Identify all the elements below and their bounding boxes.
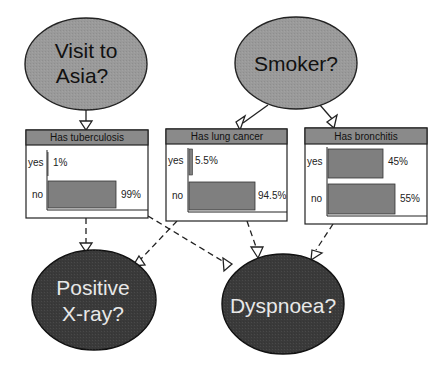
node-has-lung-cancer[interactable]: Has lung cancer yes 5.5% no 94.5%: [166, 129, 287, 221]
state-label-no: no: [311, 193, 323, 204]
bayesian-network-diagram: Visit to Asia? Smoker? Has tuberculosis …: [0, 0, 446, 373]
bar-yes: [47, 152, 49, 176]
arrowhead-icon: [223, 258, 232, 271]
arrowhead-icon: [327, 115, 337, 128]
bar-no: [328, 184, 395, 214]
node-label: X-ray?: [62, 302, 124, 325]
node-label: Asia?: [56, 64, 109, 87]
node-smoker[interactable]: Smoker?: [235, 17, 357, 109]
node-label: Smoker?: [254, 52, 338, 75]
node-visit-to-asia[interactable]: Visit to Asia?: [25, 18, 147, 110]
state-value-no: 99%: [121, 189, 141, 200]
state-value-yes: 1%: [53, 157, 68, 168]
state-value-yes: 45%: [388, 156, 408, 167]
edge-smoker-to-lung-cancer: [236, 105, 268, 130]
node-dyspnoea[interactable]: Dyspnoea?: [222, 254, 344, 354]
edge-smoker-to-bronchitis: [320, 105, 337, 128]
box-title: Has bronchitis: [334, 131, 397, 142]
state-value-yes: 5.5%: [195, 155, 218, 166]
state-value-no: 55%: [400, 193, 420, 204]
bar-no: [189, 182, 255, 210]
node-has-tuberculosis[interactable]: Has tuberculosis yes 1% no 99%: [26, 130, 148, 218]
state-label-no: no: [172, 190, 184, 201]
edge-lung-cancer-to-dyspnoea: [247, 221, 256, 247]
state-label-yes: yes: [28, 157, 44, 168]
node-label: Dyspnoea?: [230, 294, 336, 317]
node-positive-xray[interactable]: Positive X-ray?: [32, 250, 156, 350]
state-label-no: no: [32, 189, 44, 200]
arrowhead-icon: [311, 250, 322, 260]
edge-bronchitis-to-dyspnoea: [316, 224, 333, 250]
edge-asia-to-tuberculosis: [80, 110, 92, 130]
bar-yes: [328, 149, 383, 178]
edge-lung-cancer-to-xray: [140, 221, 177, 260]
box-title: Has lung cancer: [191, 131, 264, 142]
arrowhead-icon: [80, 121, 92, 130]
node-label: Positive: [56, 276, 130, 299]
state-value-no: 94.5%: [258, 190, 286, 201]
arrowhead-icon: [251, 247, 263, 258]
bar-yes: [189, 149, 193, 175]
node-label: Visit to: [55, 39, 118, 62]
bar-no: [48, 181, 116, 208]
state-label-yes: yes: [168, 155, 184, 166]
state-label-yes: yes: [307, 156, 323, 167]
box-title: Has tuberculosis: [50, 132, 124, 143]
node-has-bronchitis[interactable]: Has bronchitis yes 45% no 55%: [305, 128, 427, 224]
